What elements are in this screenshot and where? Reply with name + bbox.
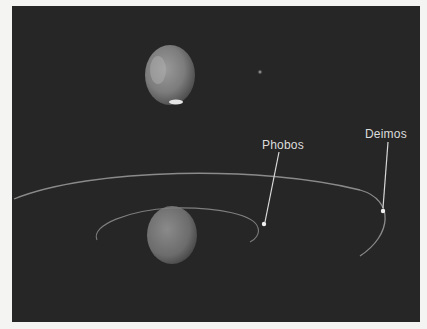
deimos-label: Deimos [365, 127, 407, 141]
star-icon [257, 69, 263, 75]
mars-lower [147, 206, 197, 264]
deimos-orbit [14, 173, 385, 256]
orbit-diagram [0, 0, 427, 329]
phobos-arrow [265, 152, 279, 222]
phobos-moon [262, 222, 266, 226]
polar-cap [169, 100, 183, 105]
deimos-moon [381, 209, 385, 213]
phobos-label: Phobos [262, 138, 304, 152]
deimos-arrow [383, 142, 388, 208]
mars-upper [145, 45, 195, 105]
